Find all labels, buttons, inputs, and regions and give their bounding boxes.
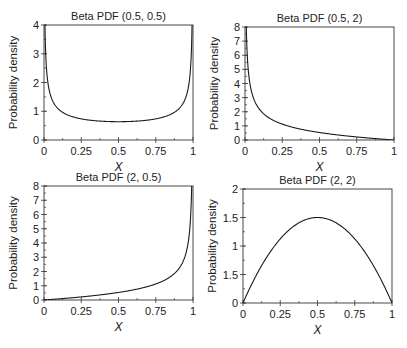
x-tick-label: 1 bbox=[389, 308, 395, 320]
panel-beta-2-0.5: Beta PDF (2, 0.5) Probability density X … bbox=[7, 163, 196, 334]
panel-title: Beta PDF (2, 0.5) bbox=[76, 171, 162, 183]
axes-frame bbox=[44, 25, 193, 140]
y-tick-label: 2 bbox=[33, 77, 39, 89]
x-axis-label: X bbox=[312, 323, 322, 337]
y-tick-label: 7 bbox=[33, 194, 39, 206]
x-tick-label: 0.75 bbox=[145, 145, 166, 157]
y-tick-label: 1.5 bbox=[223, 269, 238, 281]
x-tick-label: 0.5 bbox=[312, 145, 327, 157]
y-axis-label: Probability density bbox=[7, 36, 19, 130]
y-tick-label: 0 bbox=[232, 297, 238, 309]
y-axis-label: Probability density bbox=[208, 37, 220, 131]
pdf-curve bbox=[44, 163, 193, 300]
y-tick-label: 3 bbox=[33, 251, 39, 263]
y-tick-label: 1 bbox=[33, 280, 39, 292]
panel-title: Beta PDF (0.5, 0.5) bbox=[71, 10, 166, 22]
y-tick-label: 3 bbox=[234, 92, 240, 104]
x-tick-label: 1 bbox=[190, 305, 196, 317]
x-tick-label: 0.25 bbox=[71, 145, 92, 157]
panel-beta-0.5-2: Beta PDF (0.5, 2) Probability density X … bbox=[208, 4, 397, 174]
x-tick-label: 0 bbox=[41, 145, 47, 157]
y-tick-label: 1 bbox=[232, 240, 238, 252]
y-tick-label: 1 bbox=[33, 105, 39, 117]
y-tick-label: 3 bbox=[33, 48, 39, 60]
panel-beta-0.5-0.5: Beta PDF (0.5, 0.5) Probability density … bbox=[7, 2, 196, 174]
y-tick-label: 7 bbox=[234, 35, 240, 47]
x-tick-label: 0.75 bbox=[346, 145, 367, 157]
y-tick-label: 0 bbox=[234, 134, 240, 146]
y-tick-label: 5 bbox=[234, 63, 240, 75]
y-tick-label: 5 bbox=[33, 223, 39, 235]
pdf-curve bbox=[245, 4, 394, 140]
y-tick-label: 1 bbox=[234, 120, 240, 132]
beta-pdf-figure: Beta PDF (0.5, 0.5) Probability density … bbox=[0, 0, 407, 348]
panel-title: Beta PDF (0.5, 2) bbox=[277, 12, 363, 24]
panel-title: Beta PDF (2, 2) bbox=[279, 174, 355, 186]
y-axis-label: Probability density bbox=[206, 199, 218, 293]
y-tick-label: 2 bbox=[234, 106, 240, 118]
x-tick-label: 0.5 bbox=[111, 305, 126, 317]
x-axis-label: X bbox=[113, 320, 123, 334]
axes-frame bbox=[245, 27, 394, 140]
panel-beta-2-2: Beta PDF (2, 2) Probability density X 01… bbox=[206, 174, 395, 337]
y-tick-label: 4 bbox=[234, 78, 240, 90]
y-tick-label: 0 bbox=[33, 134, 39, 146]
y-tick-label: 6 bbox=[234, 49, 240, 61]
x-tick-label: 0.5 bbox=[310, 308, 325, 320]
y-tick-label: 4 bbox=[33, 237, 39, 249]
x-tick-label: 0.25 bbox=[272, 145, 293, 157]
axes-frame bbox=[44, 186, 193, 300]
axes-frame bbox=[243, 189, 392, 303]
x-tick-label: 1 bbox=[190, 145, 196, 157]
y-tick-label: 2 bbox=[232, 183, 238, 195]
y-tick-label: 6 bbox=[33, 209, 39, 221]
x-axis-label: X bbox=[314, 160, 324, 174]
pdf-curve bbox=[243, 218, 392, 303]
y-tick-label: 1.5 bbox=[223, 212, 238, 224]
x-tick-label: 0 bbox=[240, 308, 246, 320]
y-tick-label: 2 bbox=[33, 266, 39, 278]
x-tick-label: 0.25 bbox=[71, 305, 92, 317]
x-tick-label: 1 bbox=[391, 145, 397, 157]
y-tick-label: 8 bbox=[33, 180, 39, 192]
x-tick-label: 0.75 bbox=[145, 305, 166, 317]
y-tick-label: 4 bbox=[33, 19, 39, 31]
x-tick-label: 0 bbox=[41, 305, 47, 317]
y-tick-label: 0 bbox=[33, 294, 39, 306]
x-tick-label: 0.5 bbox=[111, 145, 126, 157]
x-tick-label: 0 bbox=[242, 145, 248, 157]
y-tick-label: 8 bbox=[234, 21, 240, 33]
x-tick-label: 0.75 bbox=[344, 308, 365, 320]
y-axis-label: Probability density bbox=[7, 196, 19, 290]
x-tick-label: 0.25 bbox=[270, 308, 291, 320]
